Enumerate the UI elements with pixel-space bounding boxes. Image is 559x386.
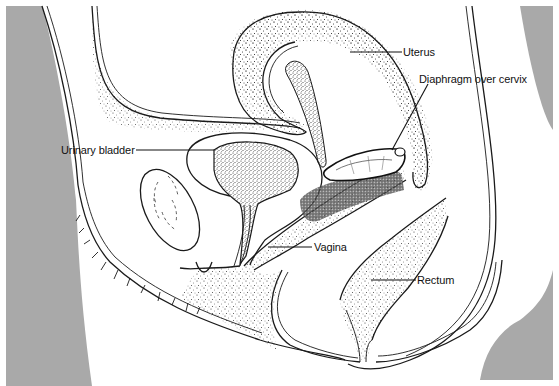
- label-uterus: Uterus: [403, 46, 435, 58]
- anatomy-diagram: [0, 0, 559, 386]
- abdominal-wall: [42, 6, 345, 360]
- label-diaphragm-over-cervix: Diaphragm over cervix: [419, 73, 527, 85]
- label-vagina: Vagina: [314, 241, 347, 253]
- label-urinary-bladder: Urinary bladder: [61, 144, 135, 156]
- label-rectum: Rectum: [417, 274, 454, 286]
- pubic-bone: [128, 160, 212, 260]
